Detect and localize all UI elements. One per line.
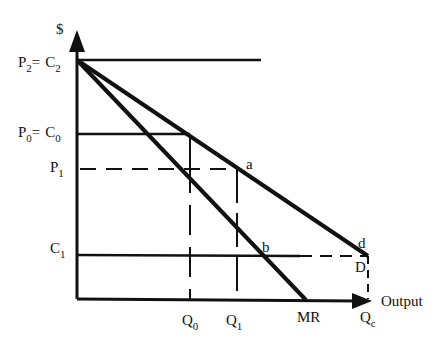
p1-label: P1 — [50, 159, 64, 179]
q0-label: Q0 — [182, 312, 199, 332]
x-axis — [77, 299, 358, 301]
x-axis-arrow-icon — [352, 293, 372, 309]
point-b-label: b — [262, 239, 270, 255]
q1-label: Q1 — [226, 312, 242, 332]
c1-label: C1 — [50, 240, 66, 260]
monopoly-diagram: $ P2=C2 P0=C0 P1 C1 Q0 Q1 MR Qc Output a… — [0, 0, 441, 345]
demand-curve — [77, 60, 368, 256]
point-a-label: a — [246, 156, 253, 172]
qc-label: Qc — [360, 309, 376, 329]
p0-c0-label: P0=C0 — [18, 124, 61, 144]
x-axis-label: Output — [381, 293, 424, 309]
y-axis-label: $ — [56, 21, 64, 37]
y-axis-arrow-icon — [69, 30, 85, 52]
point-d-label: d — [358, 235, 366, 251]
mr-label: MR — [297, 309, 320, 325]
p2-c2-label: P2=C2 — [18, 54, 61, 74]
point-D-label: D — [355, 259, 366, 275]
mr-curve — [77, 60, 306, 300]
